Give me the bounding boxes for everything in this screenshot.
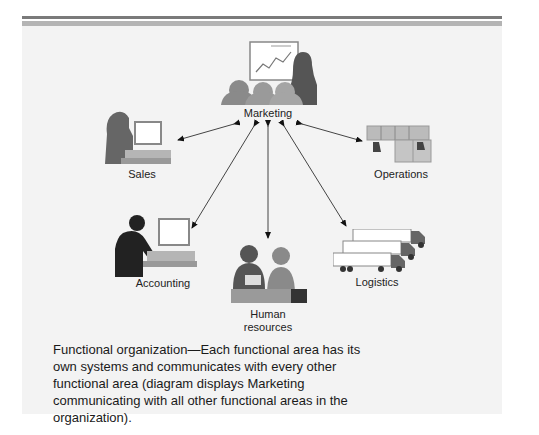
arrow-marketing-sales bbox=[178, 124, 234, 140]
arrow-marketing-accounting bbox=[192, 126, 254, 228]
arrow-marketing-logistics bbox=[284, 126, 346, 226]
figure-caption: Functional organization—Each functional … bbox=[53, 341, 363, 426]
arrow-marketing-operations bbox=[302, 124, 362, 141]
